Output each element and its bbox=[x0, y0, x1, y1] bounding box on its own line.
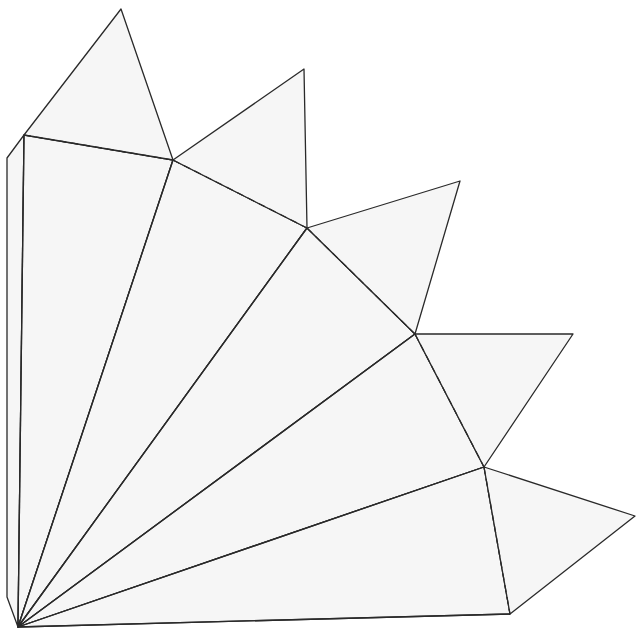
glue-tab bbox=[24, 9, 173, 160]
net-svg bbox=[0, 0, 640, 631]
pyramid-net-diagram bbox=[0, 0, 640, 631]
